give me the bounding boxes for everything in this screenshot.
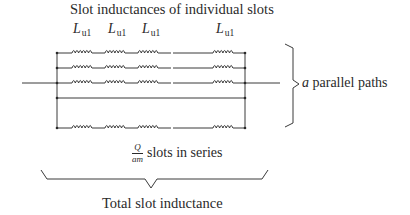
junction-dots <box>56 52 247 130</box>
path-row-2 <box>57 66 245 69</box>
series-fraction: Q am <box>132 143 143 164</box>
path-row-5 <box>57 126 245 129</box>
total-inductance-label: Total slot inductance <box>102 195 223 212</box>
series-label: Q am slots in series <box>132 143 222 164</box>
parallel-brace <box>285 44 299 127</box>
circuit-diagram <box>0 0 410 215</box>
path-row-3 <box>57 81 245 84</box>
parallel-paths-label: a parallel paths <box>302 75 388 91</box>
path-row-1 <box>57 51 245 54</box>
total-brace <box>41 170 268 188</box>
